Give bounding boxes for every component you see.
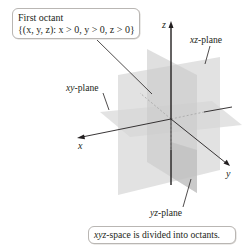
z-axis-label: z <box>162 20 166 30</box>
yz-plane-lower-front <box>171 142 197 193</box>
xy-plane-leader <box>103 93 109 110</box>
first-octant-definition: {(x, y, z): x > 0, y > 0, z > 0} <box>18 24 139 36</box>
y-axis-arrow-icon <box>224 160 231 166</box>
x-axis-label: x <box>78 141 82 151</box>
caption-box: xyz-space is divided into octants. <box>88 226 236 244</box>
y-axis-label: y <box>226 169 230 179</box>
yz-plane-label: yz-plane <box>150 207 182 218</box>
xy-plane-label: xy-plane <box>66 82 99 93</box>
xz-plane-label: xz-plane <box>190 34 222 45</box>
caption-italic: xyz <box>94 229 106 240</box>
first-octant-callout: First octant {(x, y, z): x > 0, y > 0, z… <box>12 8 140 39</box>
caption-text: -space is divided into octants. <box>106 229 220 240</box>
x-axis-arrow-icon <box>77 135 85 140</box>
first-octant-title: First octant <box>18 12 139 24</box>
